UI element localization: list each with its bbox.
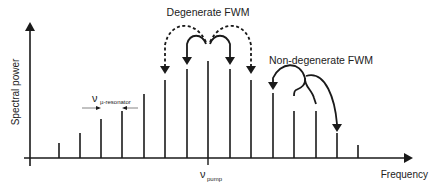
pump-label: ν pump [200, 168, 223, 182]
y-axis [25, 22, 35, 166]
arrow-down-icon [160, 66, 170, 74]
arrow-down-icon [332, 124, 342, 132]
arrow-down-icon [225, 57, 235, 65]
degenerate-fwm-label: Degenerate FWM [167, 6, 250, 18]
non-degenerate-fwm-label: Non-degenerate FWM [269, 54, 373, 66]
resonator-subscript: µ-resonator [100, 99, 131, 105]
arrow-down-icon [182, 57, 192, 65]
x-axis [24, 153, 413, 163]
pump-subscript: pump [207, 176, 223, 182]
resonator-spacing-indicator [82, 106, 138, 110]
y-axis-arrow-icon [25, 22, 35, 31]
x-axis-arrow-icon [404, 153, 413, 163]
y-axis-label: Spectral power [10, 58, 21, 125]
resonator-symbol: ν [92, 92, 98, 104]
fwm-comb-diagram: Spectral power Frequency Degenerate FWM … [0, 0, 435, 188]
resonator-label: ν µ-resonator [92, 92, 131, 105]
non-degenerate-fwm-arrows [268, 65, 342, 132]
pump-symbol: ν [200, 168, 206, 180]
x-axis-label: Frequency [381, 169, 428, 180]
arrow-down-icon [246, 66, 256, 74]
arrow-down-icon [268, 82, 278, 90]
